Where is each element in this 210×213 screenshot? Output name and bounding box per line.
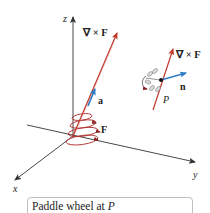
caption-text: Paddle wheel at P [32, 200, 115, 212]
x-axis-label: x [12, 183, 18, 194]
F-label: F [101, 124, 107, 135]
curl-label-paddle: ∇ × F [175, 49, 201, 60]
y-axis [27, 125, 195, 162]
curl-paddle-wheel-diagram: z y x ∇ × F a F [0, 0, 210, 213]
caption-box: Paddle wheel at P [27, 197, 193, 213]
swirl-field-loops [66, 112, 100, 146]
a-label: a [98, 95, 103, 106]
y-axis-label: y [192, 169, 198, 180]
z-axis-label: z [62, 13, 67, 24]
caption-point: P [108, 200, 115, 212]
point-P-label: P [162, 94, 169, 105]
caption-main-text: Paddle wheel at [32, 200, 108, 212]
x-axis [15, 136, 73, 180]
curl-label-main: ∇ × F [82, 27, 108, 38]
n-label: n [180, 81, 186, 92]
